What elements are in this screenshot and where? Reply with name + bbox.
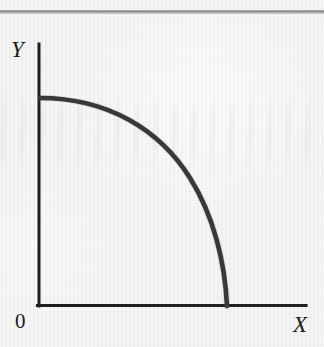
- frontier-curve: [40, 98, 227, 306]
- axis-label-x: X: [293, 313, 307, 336]
- frontier-curve-soft-edge: [40, 98, 227, 306]
- origin-label: 0: [15, 311, 26, 332]
- plot-area: [0, 0, 324, 347]
- figure-container: Y X 0: [0, 0, 324, 347]
- axis-label-y: Y: [11, 38, 24, 61]
